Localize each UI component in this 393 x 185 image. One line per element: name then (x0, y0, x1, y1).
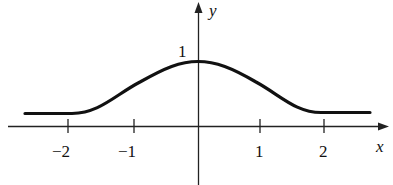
curve-line (25, 62, 370, 114)
x-axis-label: x (376, 138, 384, 155)
x-tick-label: 2 (319, 143, 328, 160)
y-axis-arrow-icon (195, 2, 203, 13)
y-tick-label: 1 (178, 43, 187, 60)
chart: y x 1 −2 −1 1 2 (0, 0, 393, 185)
y-axis-label: y (209, 2, 217, 19)
x-tick-label: 1 (255, 143, 264, 160)
x-tick-label: −2 (52, 143, 70, 160)
x-axis-arrow-icon (378, 123, 389, 131)
x-tick-label: −1 (118, 143, 136, 160)
